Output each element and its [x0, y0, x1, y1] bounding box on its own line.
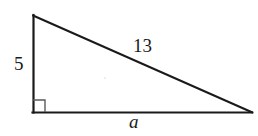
label-base-leg: a	[129, 112, 139, 131]
right-triangle-figure: 5 13 a	[0, 0, 258, 136]
label-vertical-leg: 5	[14, 54, 24, 73]
label-hypotenuse: 13	[133, 36, 152, 55]
hypotenuse-line	[33, 16, 253, 113]
right-angle-marker-icon	[33, 100, 45, 112]
paper-speck	[104, 77, 106, 79]
